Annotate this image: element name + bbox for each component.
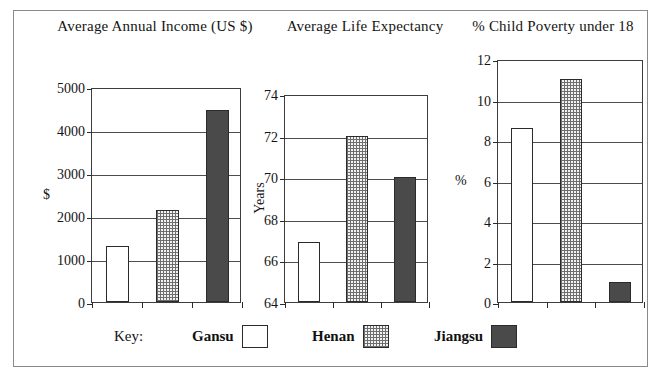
y-tick-label-life-expectancy: 66 <box>264 254 278 270</box>
y-tick-mark <box>87 89 92 90</box>
y-tick-label-income: 4000 <box>57 124 85 140</box>
legend-swatch-gansu <box>242 325 268 348</box>
bar-henan-life-expectancy <box>346 136 368 302</box>
x-tick-mark <box>285 302 286 308</box>
legend-swatch-henan <box>363 325 389 348</box>
y-tick-label-income: 2000 <box>57 210 85 226</box>
y-tick-label-child-poverty: 4 <box>484 215 491 231</box>
chart-title-child-poverty: % Child Poverty under 18 <box>460 15 646 37</box>
y-tick-label-life-expectancy: 72 <box>264 130 278 146</box>
y-tick-label-life-expectancy: 74 <box>264 88 278 104</box>
x-tick-mark <box>242 302 243 308</box>
y-tick-label-child-poverty: 0 <box>484 296 491 312</box>
legend-label-henan: Henan <box>312 328 355 345</box>
bar-henan-child-poverty <box>560 79 582 302</box>
x-tick-mark <box>142 302 143 308</box>
y-tick-label-child-poverty: 8 <box>484 134 491 150</box>
chart-title-life-expectancy: Average Life Expectancy <box>276 15 454 37</box>
y-tick-mark <box>87 261 92 262</box>
y-tick-mark <box>87 132 92 133</box>
bar-gansu-income <box>106 246 129 302</box>
x-tick-mark <box>381 302 382 308</box>
chart-panel-child-poverty: 024681012 % <box>497 60 643 303</box>
y-tick-mark <box>87 218 92 219</box>
legend-item-gansu[interactable]: Gansu <box>192 323 268 349</box>
legend-item-henan[interactable]: Henan <box>312 323 389 349</box>
y-axis-label-child-poverty: % <box>455 173 467 189</box>
x-tick-mark <box>595 302 596 308</box>
legend-item-jiangsu[interactable]: Jiangsu <box>434 323 517 349</box>
chart-panel-income: 010002000300040005000 $ <box>91 88 241 303</box>
legend-key-label: Key: <box>114 328 143 345</box>
y-tick-mark <box>493 223 498 224</box>
x-tick-mark <box>498 302 499 308</box>
figure-frame: Average Annual Income (US $) Average Lif… <box>13 10 648 367</box>
y-tick-mark <box>493 102 498 103</box>
plot-area-life-expectancy: 646668707274 <box>284 95 428 303</box>
y-tick-label-child-poverty: 2 <box>484 256 491 272</box>
x-tick-mark <box>429 302 430 308</box>
y-tick-label-child-poverty: 12 <box>477 53 491 69</box>
y-tick-label-income: 3000 <box>57 167 85 183</box>
y-tick-label-income: 5000 <box>57 81 85 97</box>
y-tick-mark <box>280 179 285 180</box>
y-tick-mark <box>280 138 285 139</box>
chart-title-income: Average Annual Income (US $) <box>40 15 270 37</box>
plot-area-child-poverty: 024681012 <box>497 60 643 303</box>
y-tick-mark <box>493 183 498 184</box>
bar-jiangsu-life-expectancy <box>394 177 416 302</box>
bar-gansu-child-poverty <box>511 128 533 302</box>
bar-jiangsu-income <box>206 110 229 302</box>
y-tick-mark <box>280 96 285 97</box>
y-axis-label-income: $ <box>43 187 50 203</box>
legend-label-jiangsu: Jiangsu <box>434 328 483 345</box>
legend-swatch-jiangsu <box>491 325 517 348</box>
y-tick-mark <box>493 142 498 143</box>
y-axis-label-life-expectancy: Years <box>252 182 268 213</box>
chart-panel-life-expectancy: 646668707274 Years <box>284 95 428 303</box>
x-tick-mark <box>192 302 193 308</box>
x-tick-mark <box>547 302 548 308</box>
legend: Key: Gansu Henan Jiangsu <box>14 321 649 355</box>
y-tick-label-income: 1000 <box>57 253 85 269</box>
bar-jiangsu-child-poverty <box>609 282 631 302</box>
x-tick-mark <box>644 302 645 308</box>
chart-titles-row: Average Annual Income (US $) Average Lif… <box>14 15 649 39</box>
legend-label-gansu: Gansu <box>192 328 234 345</box>
y-tick-label-income: 0 <box>78 296 85 312</box>
y-tick-mark <box>87 175 92 176</box>
x-tick-mark <box>92 302 93 308</box>
y-tick-label-life-expectancy: 64 <box>264 296 278 312</box>
y-tick-mark <box>280 221 285 222</box>
y-tick-mark <box>493 61 498 62</box>
plot-area-income: 010002000300040005000 <box>91 88 241 303</box>
y-tick-mark <box>280 262 285 263</box>
y-tick-label-child-poverty: 6 <box>484 175 491 191</box>
y-tick-mark <box>493 264 498 265</box>
bar-henan-income <box>156 210 179 302</box>
x-tick-mark <box>333 302 334 308</box>
y-tick-label-life-expectancy: 68 <box>264 213 278 229</box>
bar-gansu-life-expectancy <box>298 242 320 302</box>
y-tick-label-child-poverty: 10 <box>477 94 491 110</box>
